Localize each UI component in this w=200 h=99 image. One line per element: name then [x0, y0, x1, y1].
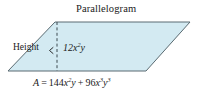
- area-formula: A = 144x2y + 96x3y3: [33, 78, 111, 88]
- interior-var-y: y: [81, 42, 85, 53]
- area-symbol: A: [33, 77, 39, 88]
- figure-title: Parallelogram: [76, 4, 136, 15]
- term1-coefficient: 144: [49, 77, 64, 88]
- parallelogram-figure: Parallelogram Height 12x2y A = 144x2y + …: [0, 0, 200, 99]
- interior-height-expression: 12x2y: [63, 43, 85, 53]
- interior-coefficient: 12: [63, 42, 73, 53]
- term2-coefficient: 96: [85, 77, 95, 88]
- height-label: Height: [13, 43, 39, 53]
- term1-var-y: y: [71, 77, 75, 88]
- term2-exponent-2: 3: [107, 76, 110, 83]
- equals-sign: =: [41, 77, 47, 88]
- plus-sign: +: [78, 77, 84, 88]
